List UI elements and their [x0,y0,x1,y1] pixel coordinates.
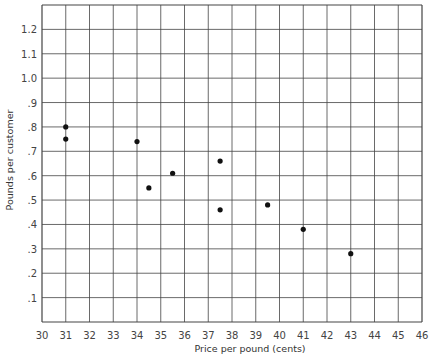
x-tick-label: 36 [178,330,191,341]
y-tick-label: .1 [27,293,37,304]
y-tick-label: .7 [27,146,37,157]
y-tick-label: .5 [27,195,37,206]
y-tick-label: 1.2 [21,24,37,35]
data-point [63,137,68,142]
y-tick-label: .2 [27,268,37,279]
y-tick-label: .3 [27,244,37,255]
data-point [348,251,353,256]
data-point [265,202,270,207]
x-tick-label: 38 [226,330,239,341]
x-tick-label: 33 [107,330,120,341]
y-tick-label: .8 [27,122,37,133]
x-tick-label: 44 [368,330,381,341]
x-tick-label: 30 [36,330,49,341]
y-tick-label: 1.0 [21,73,37,84]
x-axis-label: Price per pound (cents) [194,343,305,354]
y-tick-label: .9 [27,98,37,109]
data-point [301,227,306,232]
data-point [218,207,223,212]
data-point [63,124,68,129]
y-axis-ticks: .1.2.3.4.5.6.7.8.91.01.11.2 [21,24,37,303]
x-tick-label: 31 [59,330,72,341]
x-tick-label: 39 [249,330,262,341]
x-tick-label: 32 [83,330,96,341]
x-tick-label: 34 [131,330,144,341]
x-axis-ticks: 3031323334353637383940414243444546 [36,330,429,341]
y-tick-label: .4 [27,219,37,230]
scatter-chart: 3031323334353637383940414243444546 .1.2.… [0,0,429,363]
x-tick-label: 35 [154,330,167,341]
data-point [146,185,151,190]
x-tick-label: 41 [297,330,310,341]
chart-grid [42,5,422,322]
y-tick-label: 1.1 [21,49,37,60]
x-tick-label: 42 [321,330,334,341]
x-tick-label: 46 [416,330,429,341]
y-axis-label: Pounds per customer [4,110,15,211]
data-point [134,139,139,144]
x-tick-label: 45 [392,330,405,341]
x-tick-label: 43 [344,330,357,341]
y-tick-label: .6 [27,171,37,182]
data-point [170,171,175,176]
data-point [218,158,223,163]
x-tick-label: 37 [202,330,215,341]
x-tick-label: 40 [273,330,286,341]
